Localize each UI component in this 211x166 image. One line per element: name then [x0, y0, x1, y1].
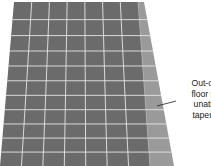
callout-line-4: tapered — [177, 110, 211, 121]
callout-line-1: Out-of-s — [177, 78, 211, 89]
callout-line-3: unattra — [177, 99, 211, 110]
callout-line-2: floor res — [177, 89, 211, 100]
callout-label: Out-of-s floor res unattra tapered — [177, 78, 211, 120]
floor-diagram: Out-of-s floor res unattra tapered — [0, 0, 211, 166]
